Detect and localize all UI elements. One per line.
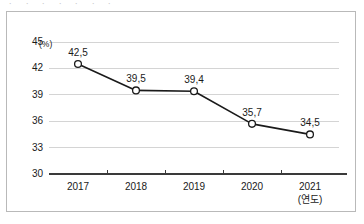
data-point-label: 34,5	[290, 118, 330, 128]
x-axis-caption: (연도)	[280, 194, 340, 205]
y-axis-tick-label: 39	[21, 90, 43, 100]
y-axis-tick-label: 30	[21, 169, 43, 179]
x-axis-tick-label: 2020	[222, 181, 282, 192]
y-axis-tick-label: 33	[21, 143, 43, 153]
cut-off-header-text: ㆍ ㆍ ㆍ ㆍ ㆍ ㆍ ㆍ	[6, 0, 356, 6]
x-axis-tick-label: 2017	[48, 181, 108, 192]
data-point-label: 35,7	[232, 108, 272, 118]
figure-container: ㆍ ㆍ ㆍ ㆍ ㆍ ㆍ ㆍ (%) 454239363330 201720182…	[0, 0, 364, 224]
data-point-label: 42,5	[58, 48, 98, 58]
x-axis-tick-label: 2018	[106, 181, 166, 192]
x-axis-tick-label: 2019	[164, 181, 224, 192]
chart-frame: (%) 454239363330 20172018201920202021(연도…	[6, 11, 356, 212]
data-point-label: 39,5	[116, 74, 156, 84]
y-axis-tick-label: 42	[21, 63, 43, 73]
x-axis-tick-label: 2021	[280, 181, 340, 192]
data-point-label: 39,4	[174, 75, 214, 85]
y-axis-tick-label: 45	[21, 37, 43, 47]
y-axis-tick-label: 36	[21, 116, 43, 126]
